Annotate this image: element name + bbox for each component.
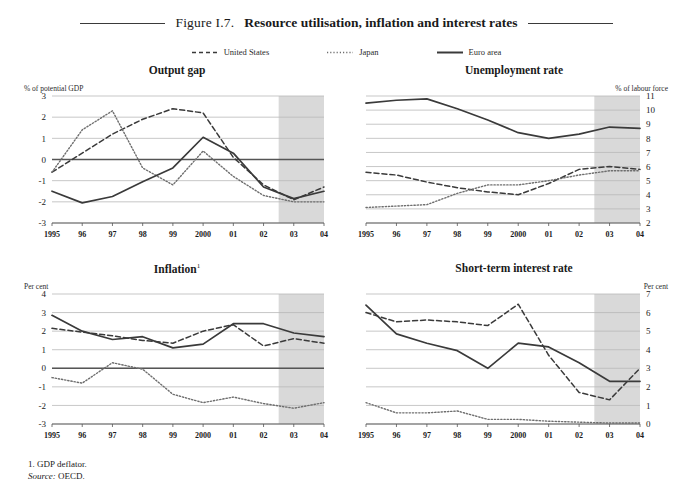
ytick-label: 6 <box>646 162 651 172</box>
ytick-label: 10 <box>646 105 656 115</box>
ytick-label: 7 <box>646 289 651 299</box>
legend-item-united-states: United States <box>192 47 270 57</box>
xtick-label: 99 <box>484 431 492 440</box>
xtick-label: 03 <box>606 431 614 440</box>
plot-unemployment-rate: 234567891011199596979899200001020304 <box>358 64 670 249</box>
xtick-label: 02 <box>575 431 583 440</box>
footnote-source-label: Source: <box>28 471 56 481</box>
xtick-label: 97 <box>108 230 116 239</box>
legend-swatch-dotted-icon <box>327 49 353 56</box>
ytick-label: 7 <box>646 148 651 158</box>
xtick-label: 04 <box>636 431 644 440</box>
xtick-label: 96 <box>78 230 86 239</box>
xtick-label: 1995 <box>44 230 60 239</box>
plot-output-gap: -3-2-10123199596979899200001020304 <box>22 64 332 249</box>
legend-swatch-dashed-icon <box>192 49 218 56</box>
xtick-label: 98 <box>453 230 461 239</box>
ytick-label: 1 <box>646 401 651 411</box>
xtick-label: 1995 <box>358 230 374 239</box>
xtick-label: 98 <box>139 230 147 239</box>
ytick-label: 8 <box>646 134 651 144</box>
ytick-label: 1 <box>42 134 47 144</box>
xtick-label: 01 <box>545 431 553 440</box>
ytick-label: 1 <box>42 345 47 355</box>
figure-number: Figure I.7. <box>175 15 234 31</box>
xtick-label: 99 <box>169 431 177 440</box>
ytick-label: 9 <box>646 119 651 129</box>
xtick-label: 2000 <box>510 230 526 239</box>
chart-legend: United States Japan Euro area <box>0 44 693 60</box>
ytick-label: 6 <box>646 308 651 318</box>
xtick-label: 02 <box>260 431 268 440</box>
plot-short-term-interest-rate: 01234567199596979899200001020304 <box>358 262 670 450</box>
figure-header: Figure I.7. Resource utilisation, inflat… <box>0 10 693 36</box>
xtick-label: 96 <box>392 230 400 239</box>
xtick-label: 99 <box>169 230 177 239</box>
xtick-label: 02 <box>575 230 583 239</box>
xtick-label: 03 <box>606 230 614 239</box>
legend-label-euro-area: Euro area <box>469 47 502 57</box>
ytick-label: 3 <box>646 204 651 214</box>
panel-unemployment-rate: Unemployment rate% of labour force234567… <box>358 64 670 249</box>
ytick-label: 0 <box>42 363 47 373</box>
legend-label-japan: Japan <box>359 47 378 57</box>
legend-label-united-states: United States <box>224 47 270 57</box>
xtick-label: 98 <box>139 431 147 440</box>
legend-swatch-solid-icon <box>437 49 463 56</box>
ytick-label: 3 <box>42 308 47 318</box>
ytick-label: 3 <box>646 363 651 373</box>
panel-short-term-interest-rate: Short-term interest ratePer cent01234567… <box>358 262 670 450</box>
xtick-label: 04 <box>320 431 328 440</box>
xtick-label: 01 <box>545 230 553 239</box>
ytick-label: -1 <box>39 176 47 186</box>
ytick-label: -2 <box>39 197 47 207</box>
xtick-label: 04 <box>636 230 644 239</box>
ytick-label: 2 <box>646 218 651 228</box>
xtick-label: 96 <box>392 431 400 440</box>
xtick-label: 01 <box>229 431 237 440</box>
footnote-1: 1. GDP deflator. <box>28 458 87 470</box>
ytick-label: 11 <box>646 91 655 101</box>
ytick-label: 4 <box>42 289 47 299</box>
header-rule-left <box>80 23 165 24</box>
xtick-label: 1995 <box>358 431 374 440</box>
legend-item-japan: Japan <box>327 47 378 57</box>
xtick-label: 98 <box>453 431 461 440</box>
footnote-source: Source: OECD. <box>28 470 87 482</box>
panel-output-gap: Output gap% of potential GDP-3-2-1012319… <box>22 64 332 249</box>
xtick-label: 99 <box>484 230 492 239</box>
ytick-label: -2 <box>39 401 47 411</box>
plot-inflation: -3-2-101234199596979899200001020304 <box>22 262 332 450</box>
xtick-label: 2000 <box>195 230 211 239</box>
panel-inflation: Inflation1Per cent-3-2-10123419959697989… <box>22 262 332 450</box>
ytick-label: 0 <box>42 155 47 165</box>
xtick-label: 04 <box>320 230 328 239</box>
ytick-label: -3 <box>39 218 47 228</box>
xtick-label: 03 <box>290 230 298 239</box>
ytick-label: -1 <box>39 382 47 392</box>
ytick-label: 0 <box>646 419 651 429</box>
ytick-label: 4 <box>646 345 651 355</box>
ytick-label: 2 <box>42 112 47 122</box>
ytick-label: 5 <box>646 326 651 336</box>
xtick-label: 03 <box>290 431 298 440</box>
legend-item-euro-area: Euro area <box>437 47 502 57</box>
footnote-source-value: OECD. <box>58 471 85 481</box>
xtick-label: 2000 <box>510 431 526 440</box>
xtick-label: 97 <box>108 431 116 440</box>
xtick-label: 02 <box>260 230 268 239</box>
xtick-label: 97 <box>423 230 431 239</box>
ytick-label: 3 <box>42 91 47 101</box>
ytick-label: 2 <box>646 382 651 392</box>
header-rule-right <box>528 23 613 24</box>
ytick-label: 5 <box>646 176 651 186</box>
footnotes: 1. GDP deflator. Source: OECD. <box>28 458 87 482</box>
ytick-label: 2 <box>42 326 47 336</box>
xtick-label: 96 <box>78 431 86 440</box>
xtick-label: 2000 <box>195 431 211 440</box>
xtick-label: 1995 <box>44 431 60 440</box>
xtick-label: 97 <box>423 431 431 440</box>
ytick-label: 4 <box>646 190 651 200</box>
figure-title: Resource utilisation, inflation and inte… <box>244 15 517 31</box>
ytick-label: -3 <box>39 419 47 429</box>
